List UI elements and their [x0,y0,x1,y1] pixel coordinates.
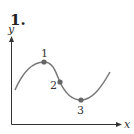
point-1-label: 1 [41,47,48,60]
arrow-up-icon [9,36,14,42]
x-axis [12,122,123,127]
point-2 [57,79,62,84]
y-axis [9,36,14,125]
point-3-label: 3 [77,104,84,117]
figure: 1. y x 1 2 3 [0,0,134,134]
y-axis-label: y [7,23,15,36]
arrow-right-icon [116,122,122,127]
function-curve [15,62,110,100]
point-1 [41,59,46,64]
point-3 [78,97,83,102]
x-axis-label: x [124,118,131,131]
point-2-label: 2 [50,79,57,92]
